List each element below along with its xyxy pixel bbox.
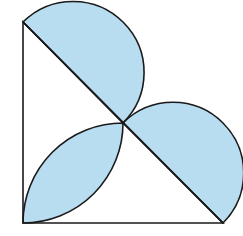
geometry-diagram (0, 0, 243, 236)
midpoint-dot (121, 121, 124, 124)
